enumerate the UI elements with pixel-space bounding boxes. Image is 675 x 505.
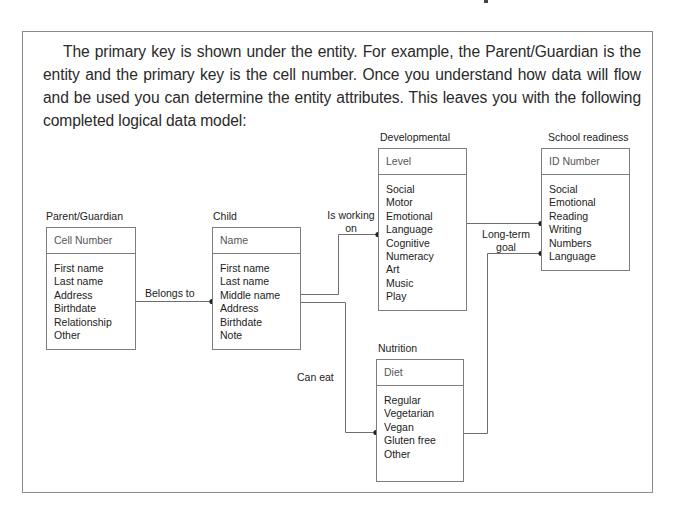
attribute: Numbers [549,237,629,250]
attribute: Music [386,277,466,290]
attribute-list: First name Last name Middle name Address… [213,254,300,342]
attribute-list: Social Motor Emotional Language Cognitiv… [379,175,466,304]
primary-key: Name [213,228,300,254]
entity-parent-guardian: Cell Number First name Last name Address… [46,227,136,350]
attribute: Address [220,302,300,315]
attribute: Cognitive [386,237,466,250]
attribute: Other [54,329,135,342]
attribute: Vegan [384,421,463,434]
attribute: Relationship [54,316,135,329]
primary-key: Diet [377,360,463,386]
primary-key: ID Number [542,149,629,175]
relationship-label-long-term-goal: Long-term goal [478,228,534,253]
attribute: Emotional [386,210,466,223]
entity-title-parent: Parent/Guardian [46,210,123,222]
attribute: Writing [549,223,629,236]
attribute-list: Social Emotional Reading Writing Numbers… [542,175,629,263]
entity-school-readiness: ID Number Social Emotional Reading Writi… [541,148,630,271]
attribute: Numeracy [386,250,466,263]
attribute: Birthdate [54,302,135,315]
attribute: Language [549,250,629,263]
attribute: Art [386,263,466,276]
attribute: Language [386,223,466,236]
attribute: Social [386,183,466,196]
relationship-label-is-working-on: Is working on [326,209,376,234]
attribute: Middle name [220,289,300,302]
attribute: First name [220,262,300,275]
attribute: Last name [220,275,300,288]
relationship-label-belongs-to: Belongs to [145,287,195,300]
label-line: Is working [326,209,376,222]
attribute: Motor [386,196,466,209]
attribute: Birthdate [220,316,300,329]
attribute: Social [549,183,629,196]
label-line: Long-term [478,228,534,241]
attribute: Emotional [549,196,629,209]
entity-title-school-readiness: School readiness [548,131,629,143]
attribute: Vegetarian [384,407,463,420]
entity-nutrition: Diet Regular Vegetarian Vegan Gluten fre… [376,359,464,482]
entity-title-developmental: Developmental [380,131,450,143]
entity-developmental: Level Social Motor Emotional Language Co… [378,148,467,311]
attribute: Last name [54,275,135,288]
entity-title-nutrition: Nutrition [378,342,417,354]
attribute: Regular [384,394,463,407]
attribute: Note [220,329,300,342]
attribute: Play [386,290,466,303]
attribute: Other [384,448,463,461]
line-can-eat [301,303,376,433]
primary-key: Cell Number [47,228,135,254]
entity-title-child: Child [213,210,237,222]
entity-child: Name First name Last name Middle name Ad… [212,227,301,350]
attribute: Gluten free [384,434,463,447]
primary-key: Level [379,149,466,175]
line-long-term-goal-nutrition [463,254,541,434]
line-is-working-on [301,235,378,295]
attribute-list: First name Last name Address Birthdate R… [47,254,135,342]
attribute-list: Regular Vegetarian Vegan Gluten free Oth… [377,386,463,461]
attribute: Address [54,289,135,302]
attribute: Reading [549,210,629,223]
label-line: goal [478,241,534,254]
attribute: First name [54,262,135,275]
relationship-label-can-eat: Can eat [297,371,334,384]
label-line: on [326,222,376,235]
